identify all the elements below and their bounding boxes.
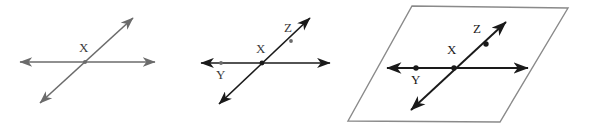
intersection-dot-x xyxy=(451,65,456,70)
point-dot-z xyxy=(483,41,488,46)
intersection-dot-x xyxy=(260,61,265,66)
labeled-intersecting-lines: XYZ xyxy=(201,18,330,104)
diagonal-line xyxy=(40,18,133,103)
figures-group: XXYZXYZ xyxy=(20,6,568,122)
geometry-figure-canvas: XXYZXYZ xyxy=(0,0,590,127)
point-z-label: Z xyxy=(473,21,481,36)
point-dot-y xyxy=(413,65,418,70)
lines-in-plane: XYZ xyxy=(348,6,568,122)
point-dot-z xyxy=(289,39,293,43)
point-y-label: Y xyxy=(411,72,421,87)
diagonal-line xyxy=(219,18,310,104)
point-dot-y xyxy=(219,61,223,65)
two-intersecting-lines: X xyxy=(20,18,155,103)
point-x-label: X xyxy=(79,40,89,55)
point-z-label: Z xyxy=(284,20,292,35)
point-x-label: X xyxy=(256,41,266,56)
point-x-label: X xyxy=(447,42,457,57)
plane-parallelogram xyxy=(348,6,568,122)
intersection-dot-x xyxy=(83,60,87,64)
point-y-label: Y xyxy=(216,67,226,82)
geometry-svg: XXYZXYZ xyxy=(0,0,590,127)
